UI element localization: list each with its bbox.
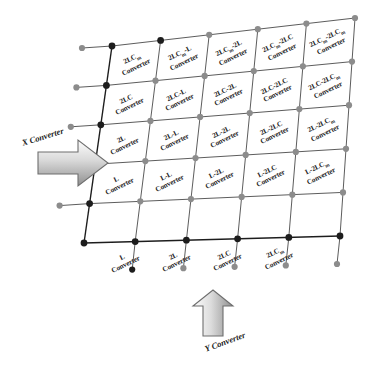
grid-node xyxy=(285,234,292,241)
grid-node xyxy=(247,110,253,116)
grid-node xyxy=(197,114,203,120)
grid-node xyxy=(234,235,241,242)
grid-node xyxy=(142,158,148,164)
grid-node xyxy=(79,45,85,51)
grid-node xyxy=(334,261,340,267)
grid-node xyxy=(188,196,194,202)
grid-node xyxy=(352,15,358,21)
grid-node xyxy=(343,146,349,152)
grid-line xyxy=(82,46,112,48)
grid-node xyxy=(296,106,302,112)
grid-node xyxy=(303,21,309,27)
y-converter-arrow-group xyxy=(168,286,278,366)
grid-node xyxy=(239,194,245,200)
grid-node xyxy=(180,265,186,271)
converter-matrix-diagram: 2LCmConverter2LCm-LConverter2LCm-2LConve… xyxy=(0,0,371,368)
grid-node xyxy=(349,59,355,65)
arrow-up-icon xyxy=(193,290,233,336)
arrow-right-icon xyxy=(38,140,108,186)
grid-node xyxy=(337,233,344,240)
grid-node xyxy=(346,102,352,108)
grid-line xyxy=(238,29,258,239)
grid-line xyxy=(101,105,349,125)
grid-node xyxy=(243,152,249,158)
grid-node xyxy=(137,198,143,204)
grid-node xyxy=(157,37,164,44)
grid-node xyxy=(340,189,346,195)
grid-node xyxy=(132,238,139,245)
grid-node xyxy=(73,84,79,90)
grid-node xyxy=(183,237,190,244)
grid-node xyxy=(192,155,198,161)
x-converter-arrow-group xyxy=(16,118,136,208)
grid-node xyxy=(152,78,158,84)
grid-node xyxy=(109,43,116,50)
grid-node xyxy=(81,240,88,247)
grid-line xyxy=(340,18,355,236)
grid-line xyxy=(289,24,307,238)
grid-node xyxy=(251,68,257,74)
grid-line xyxy=(337,236,340,264)
grid-node xyxy=(289,192,295,198)
grid-node xyxy=(129,267,135,273)
grid-node xyxy=(206,32,212,38)
grid-node xyxy=(147,118,153,124)
grid-node xyxy=(300,63,306,69)
grid-node xyxy=(202,73,208,79)
grid-line xyxy=(84,236,340,243)
grid-node xyxy=(293,149,299,155)
grid-node xyxy=(255,26,261,32)
grid-line xyxy=(76,85,106,87)
grid-node xyxy=(103,82,110,89)
